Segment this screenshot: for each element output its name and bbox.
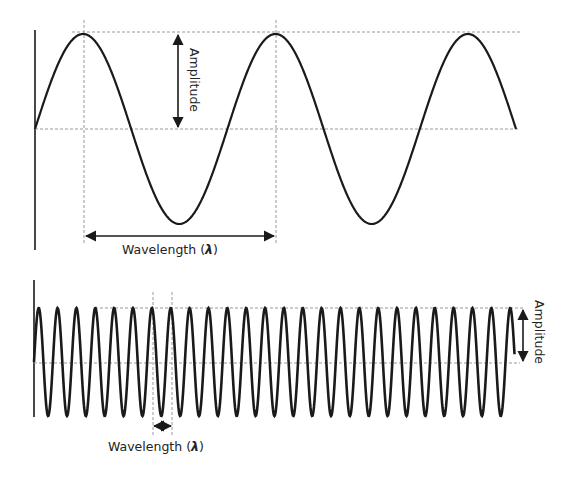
bottom-amplitude-label: Amplitude xyxy=(532,300,547,364)
top-amplitude-label: Amplitude xyxy=(187,48,202,112)
top-wavelength-label: Wavelength (λ) xyxy=(122,242,218,257)
bottom-wavelength-label: Wavelength (λ) xyxy=(108,439,204,454)
top-wave-panel: Amplitude Wavelength (λ) xyxy=(35,20,520,257)
wave-diagram: Amplitude Wavelength (λ) Amplitude Wavel… xyxy=(0,0,575,480)
bottom-wave-panel: Amplitude Wavelength (λ) xyxy=(34,280,547,454)
bottom-sine-wave xyxy=(34,308,515,416)
